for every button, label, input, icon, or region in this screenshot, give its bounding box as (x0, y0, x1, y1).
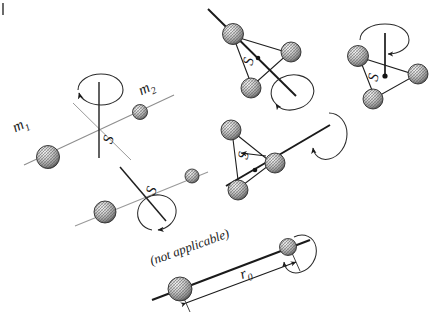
mass-sphere-bottomleft (228, 180, 248, 200)
mass-sphere-bottom (363, 89, 383, 109)
mass-sphere-right (281, 42, 301, 62)
mass-sphere-small (185, 169, 199, 183)
horizontal-ground-line (73, 103, 131, 160)
config-triangle-right-vertical-axis (348, 24, 429, 109)
mass-sphere-large (94, 201, 116, 223)
config-two-mass-oblique-axis (75, 167, 208, 230)
center-of-mass-point (382, 73, 387, 78)
mass-sphere-left (348, 46, 369, 67)
mass-sphere-top (223, 24, 244, 45)
mass-sphere-m2 (133, 105, 148, 120)
mass-sphere-m1 (37, 146, 60, 169)
dimension-r0 (178, 244, 300, 312)
mass-sphere-right (265, 153, 285, 173)
rotation-axis-oblique (120, 167, 166, 221)
rotation-arrow-ellipse (313, 113, 347, 159)
center-of-mass-point (253, 168, 258, 173)
mass-sphere-right (280, 239, 297, 256)
mass-sphere-left (168, 277, 192, 301)
config-triangle-top-oblique-axis (208, 9, 314, 110)
mass-sphere-right (408, 64, 428, 84)
mass-sphere-topleft (221, 120, 241, 140)
rotation-arrow-ellipse (138, 195, 176, 230)
rotation-arrow-ellipse (78, 74, 123, 105)
physics-rotation-diagram: m1 m2 S S S S S (not applicable) r0 (0, 0, 432, 319)
mass-sphere-bottom (241, 78, 261, 98)
diagram-canvas (0, 0, 432, 319)
